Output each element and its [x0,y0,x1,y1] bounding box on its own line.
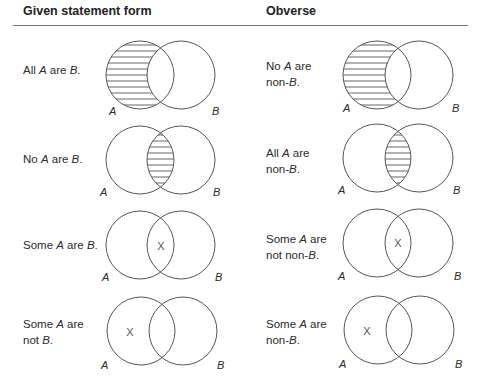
label-b: B [454,270,461,282]
label-a: A [108,105,116,117]
label-a: A [338,358,346,370]
x-mark: X [157,240,165,252]
label-a: A [101,271,109,283]
label-a: A [337,270,345,282]
label-a: A [342,102,350,114]
venn-diagram-row-1-given: A B [106,41,219,117]
label-b: B [452,102,459,114]
label-b: B [215,271,222,283]
venn-diagram-row-2-obverse: A B [337,124,460,196]
x-mark: X [126,326,134,338]
label-a: A [99,186,107,198]
venn-diagram-row-1-obverse: A B [342,41,459,114]
label-b: B [217,359,224,371]
label-b: B [455,358,462,370]
circle-b [149,297,217,365]
label-b: B [453,184,460,196]
label-a: A [337,184,345,196]
venn-diagram-row-3-given: X A B [101,211,222,283]
label-b: B [212,105,219,117]
x-mark: X [363,325,371,337]
venn-diagram-row-4-obverse: X A B [338,296,462,370]
venn-diagram-row-4-given: X A B [100,297,224,371]
venn-diagram-row-2-given: A B [99,126,220,198]
label-a: A [100,359,108,371]
venn-diagram-row-3-obverse: X A B [337,209,461,282]
circle-b [386,296,454,364]
label-b: B [213,186,220,198]
circle-a [107,297,175,365]
venn-diagrams: A B A B A B A B X A B X A B [0,0,480,386]
x-mark: X [394,237,402,249]
circle-a [344,296,412,364]
